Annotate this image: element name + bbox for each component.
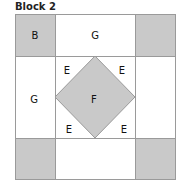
square-bottom-left [15, 138, 55, 180]
square-bottom-right [135, 138, 176, 180]
label-e-bottom-right: E [121, 124, 127, 135]
label-g-left: G [30, 94, 38, 105]
label-b: B [32, 30, 39, 41]
label-e-bottom-left: E [66, 124, 72, 135]
label-e-top-left: E [64, 65, 70, 76]
label-f: F [91, 94, 97, 105]
square-top-right [135, 14, 176, 56]
quilt-block-diagram: B G G F E E E E [0, 0, 185, 196]
label-g-top: G [91, 30, 99, 41]
label-e-top-right: E [119, 65, 125, 76]
